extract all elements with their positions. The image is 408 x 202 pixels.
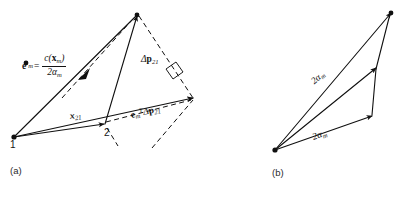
vertex-dot-top-b	[389, 11, 394, 16]
caption-panel-b: (b)	[272, 168, 284, 178]
fraction-c-over-2alpha: c(xm) 2αm	[42, 54, 66, 79]
numerator-close-paren: )	[61, 53, 64, 63]
panel-a-geometry	[11, 13, 193, 148]
caption-panel-a: (a)	[10, 166, 22, 176]
fraction-numerator: c(xm)	[42, 54, 66, 66]
vertex-dot-apex	[135, 13, 140, 18]
dashed-projection-guide	[62, 20, 132, 98]
right-angle-icon	[166, 62, 183, 79]
projection-p-subscript: 21	[154, 107, 162, 115]
vertex-label-1: 1	[10, 140, 16, 150]
x-vector-subscript: 21	[74, 113, 82, 121]
em-subscript: m	[28, 63, 33, 70]
p-vector-subscript: 21	[152, 58, 159, 65]
figure-root: em = c(xm) 2αm Δp21 x21 emTΔp21 1 2 (a) …	[0, 0, 408, 202]
denominator-subscript: m	[57, 71, 62, 78]
edge-middle-to-lower-vertex	[372, 69, 376, 115]
equals-sign: =	[34, 62, 39, 72]
numerator-function: c(	[44, 53, 51, 63]
figure-canvas	[0, 0, 408, 202]
panel-b-geometry	[272, 11, 393, 153]
vertex-dot-origin-b	[272, 147, 277, 152]
label-delta-p21: Δp21	[141, 55, 158, 65]
label-x21: x21	[69, 110, 82, 122]
label-em-definition: em = c(xm) 2αm	[22, 54, 66, 79]
fraction-denominator: 2αm	[45, 67, 64, 79]
em-symbol: e	[22, 62, 26, 72]
vector-x21	[14, 124, 104, 137]
vertex-label-2: 2	[104, 128, 110, 138]
